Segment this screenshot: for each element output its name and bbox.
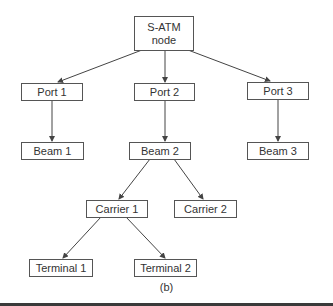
node-beam-3: Beam 3 xyxy=(247,142,309,160)
edge-beam2-carrier1 xyxy=(119,159,150,199)
edge-carrier1-terminal1 xyxy=(63,217,101,258)
node-terminal-2: Terminal 2 xyxy=(134,259,197,277)
edge-root-port1 xyxy=(58,50,142,82)
node-carrier-2: Carrier 2 xyxy=(174,200,237,218)
node-s-atm: S-ATM node xyxy=(134,16,194,51)
edge-root-port3 xyxy=(188,50,270,81)
node-beam-1: Beam 1 xyxy=(21,142,84,160)
node-terminal-1: Terminal 1 xyxy=(29,259,93,277)
edge-beam2-carrier2 xyxy=(174,159,203,199)
figure-caption: (b) xyxy=(0,281,333,293)
node-port-1: Port 1 xyxy=(21,83,83,101)
node-carrier-1: Carrier 1 xyxy=(86,200,148,218)
node-beam-2: Beam 2 xyxy=(129,142,191,160)
edge-carrier1-terminal2 xyxy=(126,217,165,258)
node-port-2: Port 2 xyxy=(134,83,195,101)
node-port-3: Port 3 xyxy=(247,82,309,100)
